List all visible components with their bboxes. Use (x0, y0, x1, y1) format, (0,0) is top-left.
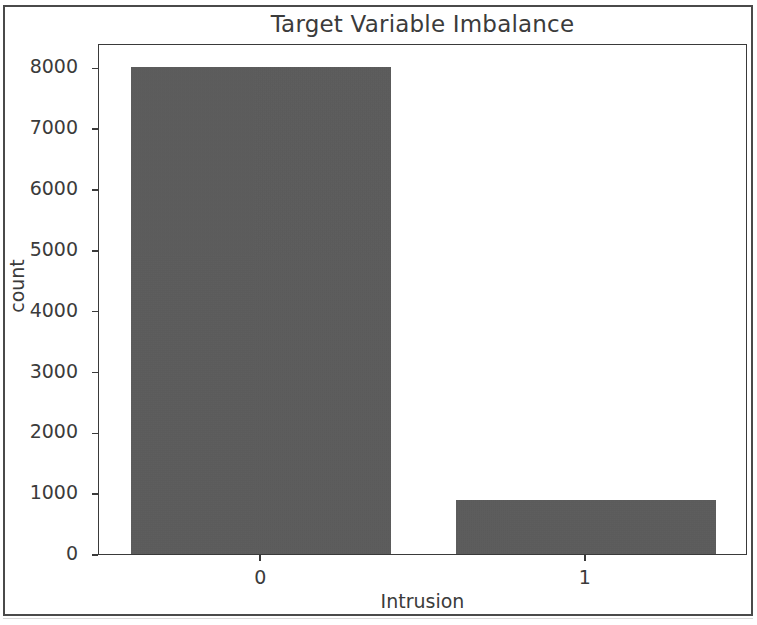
x-axis-title: Intrusion (98, 590, 747, 612)
page-border-bottom-edge (3, 618, 753, 619)
chart-title: Target Variable Imbalance (98, 11, 747, 37)
bar-0 (131, 67, 391, 554)
y-tick-label-text: 7000 (30, 116, 78, 138)
x-tick-mark (584, 555, 586, 561)
plot-area (98, 44, 747, 555)
bar-series (99, 45, 746, 554)
y-tick-label-text: 3000 (30, 360, 78, 382)
x-tick-label-text: 1 (525, 566, 645, 588)
y-tick-label-text: 5000 (30, 238, 78, 260)
y-tick-label-text: 8000 (30, 55, 78, 77)
y-axis-title: count (6, 241, 28, 331)
x-tick-label-text: 0 (200, 566, 320, 588)
y-tick-label-text: 1000 (30, 481, 78, 503)
y-tick-label-text: 6000 (30, 177, 78, 199)
y-tick-label-text: 0 (66, 542, 78, 564)
figure-canvas: Target Variable Imbalance 01000200030004… (0, 0, 757, 625)
y-tick-label-text: 2000 (30, 420, 78, 442)
bar-1 (456, 500, 716, 554)
y-tick-label-text: 4000 (30, 299, 78, 321)
x-tick-mark (259, 555, 261, 561)
